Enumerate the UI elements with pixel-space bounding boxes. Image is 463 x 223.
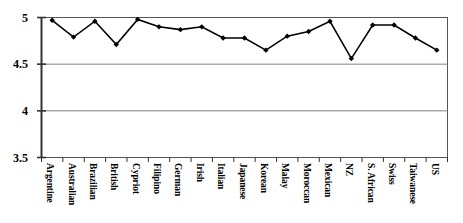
x-axis-category-label: Cypriot xyxy=(130,163,142,223)
x-axis-category-label: Mexican xyxy=(322,163,334,223)
x-axis-category-label: Korean xyxy=(258,163,270,223)
x-axis-category-label: German xyxy=(172,163,184,223)
x-axis-category-label: Taiwanese xyxy=(407,163,419,223)
x-axis-category-label: British xyxy=(108,163,120,223)
x-axis-category-label: Brazilian xyxy=(87,163,99,223)
x-axis-category-label: Italian xyxy=(215,163,227,223)
x-axis-category-label: Argentine xyxy=(44,163,56,223)
x-axis-category-label: S. African xyxy=(365,163,377,223)
line-chart: 3.544.55 ArgentineAustralianBrazilianBri… xyxy=(0,0,463,223)
x-axis-category-label: Irish xyxy=(194,163,206,223)
x-axis-category-label: Filipino xyxy=(151,163,163,223)
x-axis-category-label: NZ xyxy=(343,163,355,223)
x-axis-category-label: Malay xyxy=(279,163,291,223)
x-axis-category-label: Swiss xyxy=(386,163,398,223)
x-axis-category-label: Australian xyxy=(66,163,78,223)
x-axis-category-label: US xyxy=(429,163,441,223)
x-axis-category-label: Japanese xyxy=(237,163,249,223)
x-axis-category-label: Moroccan xyxy=(301,163,313,223)
x-axis-labels: ArgentineAustralianBrazilianBritishCypri… xyxy=(0,0,463,223)
